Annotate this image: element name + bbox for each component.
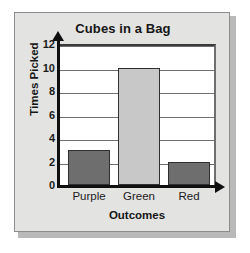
x-axis-tick-labels: Purple Green Red — [60, 190, 215, 206]
y-axis-title: Times Picked — [28, 24, 40, 134]
x-axis-line — [57, 185, 217, 188]
y-axis-arrow-icon — [52, 31, 64, 41]
bar-slot-purple — [68, 44, 110, 185]
bar-slot-green — [118, 44, 160, 185]
chart-panel: Cubes in a Bag 12 10 8 6 4 2 0 Times Pic… — [14, 12, 230, 232]
bar-series — [60, 44, 215, 185]
bar-red — [168, 162, 210, 186]
chart-title: Cubes in a Bag — [15, 21, 231, 36]
x-tick-label-red: Red — [160, 190, 218, 202]
x-axis-title: Outcomes — [59, 209, 215, 221]
bar-green — [118, 68, 160, 186]
bar-purple — [68, 150, 110, 185]
chart-page: Cubes in a Bag 12 10 8 6 4 2 0 Times Pic… — [0, 0, 250, 253]
bar-slot-red — [168, 44, 210, 185]
y-tick-label: 0 — [29, 179, 55, 191]
y-tick-label: 2 — [29, 156, 55, 168]
